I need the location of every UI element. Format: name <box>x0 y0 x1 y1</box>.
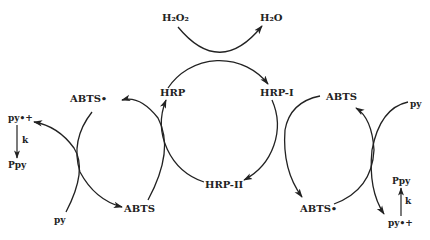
h2o2-label: H₂O₂ <box>162 12 189 23</box>
left-abts-label: ABTS <box>123 203 155 214</box>
hrp-label: HRP <box>160 87 186 98</box>
left-abts-cycle <box>77 99 165 207</box>
right-ppy-label: Ppy <box>392 176 411 186</box>
enzyme-cycle <box>162 61 278 182</box>
hrp-i-label: HRP-I <box>260 87 294 98</box>
left-k-label: k <box>22 135 29 145</box>
left-ppy-label: Ppy <box>8 160 27 170</box>
left-py-oxidation-arc <box>34 122 79 212</box>
h2o-label: H₂O <box>260 12 283 23</box>
right-abts-label: ABTS <box>325 91 357 102</box>
right-py-oxidation-arc <box>371 102 408 214</box>
left-py-radical-label: py•+ <box>8 113 33 123</box>
right-py-radical-label: py•+ <box>388 218 413 228</box>
right-k-label: k <box>405 196 412 206</box>
peroxide-reaction-arc <box>178 26 262 52</box>
right-abts-radical-label: ABTS• <box>299 203 337 214</box>
hrp-abts-reaction-diagram: H₂O₂ H₂O HRP HRP-I HRP-II ABTS• ABTS py•… <box>0 0 430 240</box>
left-py-label: py <box>54 215 66 225</box>
left-abts-radical-label: ABTS• <box>69 93 107 104</box>
right-abts-cycle <box>285 96 374 204</box>
hrp-ii-label: HRP-II <box>205 179 244 190</box>
right-py-label: py <box>410 99 422 109</box>
